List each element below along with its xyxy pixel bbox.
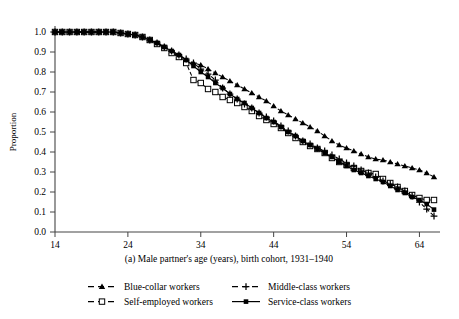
marker-filled-square — [308, 143, 313, 148]
x-tick-label: 54 — [342, 240, 352, 250]
marker-filled-square — [126, 32, 131, 37]
marker-filled-square — [177, 53, 182, 58]
marker-filled-square — [75, 30, 80, 35]
marker-open-square — [213, 89, 218, 94]
marker-filled-square — [198, 70, 203, 75]
marker-filled-square — [140, 35, 145, 40]
marker-filled-square — [432, 207, 437, 212]
marker-filled-square — [162, 45, 167, 50]
y-tick-label: 0.7 — [34, 87, 46, 97]
marker-filled-square — [104, 30, 109, 35]
marker-filled-square — [286, 130, 291, 135]
marker-filled-square — [403, 191, 408, 196]
legend-label: Middle-class workers — [268, 282, 350, 292]
marker-filled-square — [82, 30, 87, 35]
marker-filled-square — [330, 155, 335, 160]
y-tick-label: 1.0 — [34, 27, 46, 37]
marker-filled-square — [279, 125, 284, 130]
marker-filled-square — [53, 30, 58, 35]
marker-open-square — [99, 299, 104, 304]
marker-filled-square — [373, 177, 378, 182]
marker-filled-square — [228, 92, 233, 97]
marker-filled-square — [337, 160, 342, 165]
chart-figure: Proportion 0.00.10.20.30.40.50.60.70.80.… — [0, 0, 459, 319]
figure-caption: (a) Male partner's age (years), birth co… — [125, 254, 334, 265]
marker-filled-square — [89, 30, 94, 35]
marker-filled-square — [191, 64, 196, 69]
marker-open-square — [220, 94, 225, 99]
marker-filled-square — [242, 101, 247, 106]
marker-filled-square — [395, 188, 400, 193]
marker-open-square — [198, 80, 203, 85]
y-tick-label: 0.9 — [34, 47, 46, 57]
marker-filled-square — [220, 86, 225, 91]
marker-filled-square — [235, 97, 240, 102]
marker-filled-square — [213, 81, 218, 86]
marker-filled-square — [118, 31, 123, 36]
marker-filled-square — [184, 58, 189, 63]
legend-label: Self-employed workers — [124, 297, 213, 307]
x-tick-label: 44 — [269, 240, 279, 250]
y-tick-label: 0.3 — [34, 167, 46, 177]
marker-filled-square — [417, 198, 422, 203]
legend-label: Blue-collar workers — [124, 282, 200, 292]
marker-filled-square — [206, 75, 211, 80]
x-tick-label: 34 — [196, 240, 206, 250]
marker-filled-square — [133, 33, 138, 38]
marker-filled-square — [147, 38, 152, 43]
marker-filled-square — [410, 195, 415, 200]
marker-filled-square — [96, 30, 101, 35]
y-tick-label: 0.5 — [34, 127, 46, 137]
marker-filled-square — [424, 202, 429, 207]
marker-filled-square — [388, 184, 393, 189]
marker-filled-square — [169, 49, 174, 54]
marker-filled-square — [315, 147, 320, 152]
x-tick-label: 64 — [415, 240, 425, 250]
y-tick-label: 0.8 — [34, 67, 46, 77]
marker-filled-square — [359, 171, 364, 176]
y-tick-label: 0.0 — [34, 227, 46, 237]
marker-filled-square — [155, 41, 160, 46]
marker-filled-square — [60, 30, 65, 35]
y-tick-label: 0.2 — [34, 187, 46, 197]
y-tick-label: 0.4 — [34, 147, 46, 157]
x-tick-label: 14 — [50, 240, 60, 250]
marker-filled-square — [381, 180, 386, 185]
chart-canvas: Proportion 0.00.10.20.30.40.50.60.70.80.… — [0, 0, 459, 319]
marker-filled-square — [264, 116, 269, 121]
marker-open-square — [205, 86, 210, 91]
x-tick-label: 24 — [123, 240, 133, 250]
y-tick-label: 0.1 — [34, 207, 46, 217]
marker-filled-square — [271, 120, 276, 125]
marker-open-square — [431, 197, 436, 202]
marker-filled-square — [67, 30, 72, 35]
marker-filled-square — [322, 151, 327, 156]
marker-open-square — [227, 97, 232, 102]
marker-filled-square — [293, 134, 298, 139]
marker-filled-square — [344, 164, 349, 169]
y-tick-label: 0.6 — [34, 107, 46, 117]
marker-filled-square — [249, 106, 254, 111]
marker-filled-square — [301, 139, 306, 144]
marker-filled-square — [352, 168, 357, 173]
marker-open-square — [191, 77, 196, 82]
marker-filled-square — [366, 174, 371, 179]
marker-filled-square — [111, 30, 116, 35]
y-axis-title: Proportion — [8, 112, 18, 151]
marker-filled-square — [244, 299, 249, 304]
marker-filled-square — [257, 111, 262, 116]
legend-label: Service-class workers — [268, 297, 351, 307]
